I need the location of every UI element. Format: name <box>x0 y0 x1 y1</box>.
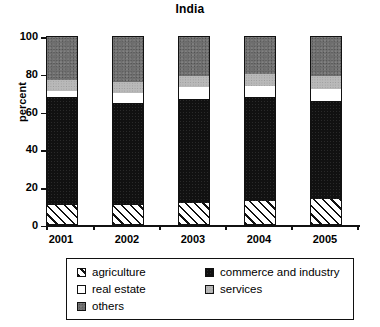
bar-2004-segment-agriculture[interactable] <box>244 201 276 226</box>
chart-title: India <box>0 2 380 16</box>
bar-2002-segment-realestate[interactable] <box>112 93 144 103</box>
bar-2004-segment-commerce[interactable] <box>244 97 276 201</box>
bar-2004[interactable] <box>244 36 276 225</box>
bar-2002-segment-commerce[interactable] <box>112 103 144 205</box>
x-tick-3 <box>225 225 227 230</box>
bar-2001-segment-commerce[interactable] <box>46 97 78 205</box>
legend-label-others: others <box>92 301 124 313</box>
bar-2003-segment-others[interactable] <box>178 36 210 76</box>
bar-2002[interactable] <box>112 36 144 225</box>
legend-item-commerce-and-industry[interactable]: commerce and industry <box>205 264 345 281</box>
bar-2003-segment-realestate[interactable] <box>178 87 210 98</box>
bar-2001-segment-others[interactable] <box>46 36 78 80</box>
x-tick-label-2003: 2003 <box>165 233 221 245</box>
bar-2001-segment-services[interactable] <box>46 80 78 91</box>
legend-label-commerce-and-industry: commerce and industry <box>220 267 340 279</box>
chart-figure: India percent 100 80 60 40 20 0 2001 200… <box>0 0 380 327</box>
y-tick-label-100: 100 <box>4 30 38 42</box>
bar-2003-segment-commerce[interactable] <box>178 99 210 203</box>
x-tick-label-2004: 2004 <box>231 233 287 245</box>
bar-2005-segment-commerce[interactable] <box>310 101 342 199</box>
bar-2005-segment-agriculture[interactable] <box>310 199 342 226</box>
legend-item-others[interactable]: others <box>77 298 205 315</box>
bar-2001[interactable] <box>46 36 78 225</box>
bar-2005-segment-realestate[interactable] <box>310 89 342 100</box>
x-tick-label-2002: 2002 <box>99 233 155 245</box>
bar-2004-segment-others[interactable] <box>244 36 276 74</box>
x-tick-label-2005: 2005 <box>297 233 353 245</box>
x-tick-2 <box>159 225 161 230</box>
legend-swatch-services-icon <box>205 285 214 294</box>
legend-label-agriculture: agriculture <box>92 267 146 279</box>
bar-2005-segment-others[interactable] <box>310 36 342 76</box>
bar-2002-segment-services[interactable] <box>112 82 144 93</box>
legend-swatch-real-estate-icon <box>77 285 86 294</box>
y-tick-label-60: 60 <box>4 106 38 118</box>
x-tick-4 <box>291 225 293 230</box>
x-tick-1 <box>93 225 95 230</box>
bar-2004-segment-realestate[interactable] <box>244 86 276 97</box>
chart-legend: agriculture commerce and industry real e… <box>66 258 354 320</box>
legend-item-real-estate[interactable]: real estate <box>77 281 205 298</box>
bar-2001-segment-agriculture[interactable] <box>46 205 78 226</box>
bar-2005-segment-services[interactable] <box>310 76 342 89</box>
legend-swatch-commerce-icon <box>205 268 214 277</box>
bar-2004-segment-services[interactable] <box>244 74 276 85</box>
legend-item-services[interactable]: services <box>205 281 345 298</box>
y-tick-label-20: 20 <box>4 181 38 193</box>
bar-2005[interactable] <box>310 36 342 225</box>
plot-area: 100 80 60 40 20 0 2001 2002 2003 2004 20… <box>46 30 364 234</box>
legend-item-agriculture[interactable]: agriculture <box>77 264 205 281</box>
bar-2003[interactable] <box>178 36 210 225</box>
y-tick-label-40: 40 <box>4 143 38 155</box>
y-tick-label-80: 80 <box>4 68 38 80</box>
legend-label-real-estate: real estate <box>92 284 146 296</box>
x-tick-5 <box>357 225 359 230</box>
bar-2002-segment-others[interactable] <box>112 36 144 81</box>
legend-label-services: services <box>220 284 262 296</box>
bar-2002-segment-agriculture[interactable] <box>112 205 144 226</box>
x-tick-0 <box>46 225 48 230</box>
bar-2001-segment-realestate[interactable] <box>46 91 78 97</box>
bar-2003-segment-agriculture[interactable] <box>178 203 210 226</box>
y-tick-label-0: 0 <box>4 219 38 231</box>
bar-2003-segment-services[interactable] <box>178 76 210 87</box>
legend-swatch-agriculture-icon <box>77 268 86 277</box>
legend-swatch-others-icon <box>77 302 86 311</box>
x-tick-label-2001: 2001 <box>33 233 89 245</box>
